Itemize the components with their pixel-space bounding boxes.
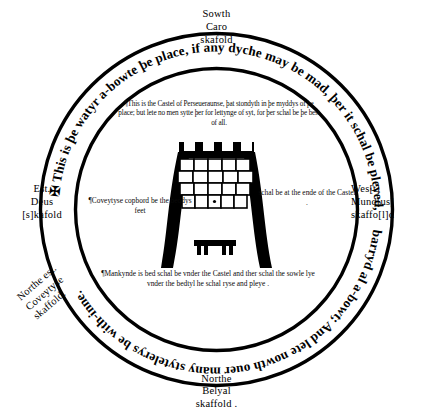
annotation-castle: ¶This is the Castel of Perseueraunse, þa… bbox=[116, 100, 322, 128]
scaffold-label-north: Northe Belyal skaffold . bbox=[0, 373, 433, 411]
annotation-coveytyse-copbord: ¶Coveytyse copbord be the beddys feet bbox=[88, 196, 192, 216]
scaffold-label-south: Sowth Caro skafold bbox=[0, 8, 433, 46]
castle-crenellations bbox=[179, 142, 254, 158]
scaffold-label-west: Wes[t] Mund[us] skaffo[l]d bbox=[351, 183, 431, 221]
castle-door-mark bbox=[213, 200, 216, 203]
mankynde-bed bbox=[194, 240, 236, 255]
scaffold-label-east: Est. Deus [s]kafold bbox=[4, 183, 80, 221]
annotation-castel-ende: schal be at the ende of the Castel . bbox=[258, 188, 356, 208]
annotation-mankynde-bed: ¶Mankynde is bed schal be vnder the Cast… bbox=[98, 269, 318, 288]
